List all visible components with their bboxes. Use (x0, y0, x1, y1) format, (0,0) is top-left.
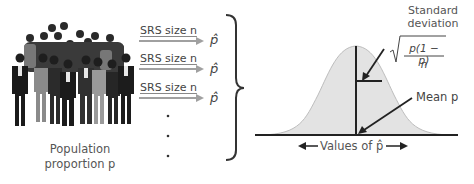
population-label-line1: Population (20, 142, 140, 157)
std-title-line2: deviation (398, 17, 468, 30)
sample-result-1: p̂ (210, 32, 218, 47)
axis-label: Values of p̂ (320, 139, 383, 153)
sample-label-2: SRS size n (140, 52, 197, 65)
sample-result-3: p̂ (210, 90, 218, 105)
ellipsis-dots (167, 115, 170, 158)
crowd-icon (12, 22, 134, 126)
population-label-line2: proportion p (20, 157, 140, 172)
std-title-line1: Standard (398, 4, 468, 17)
std-formula-denominator: n (404, 58, 444, 70)
std-dev-title: Standard deviation (398, 4, 468, 30)
population-label: Population proportion p (20, 142, 140, 172)
curly-brace-icon (226, 15, 244, 160)
sample-result-2: p̂ (210, 61, 218, 76)
mean-label: Mean p (416, 90, 458, 104)
sample-label-3: SRS size n (140, 81, 197, 94)
sample-label-1: SRS size n (140, 24, 197, 37)
